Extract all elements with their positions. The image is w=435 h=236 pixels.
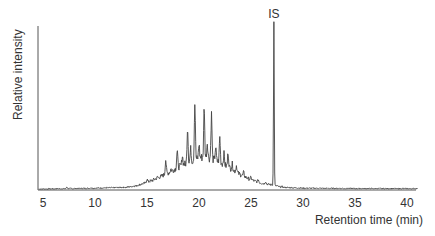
- x-tick-label: 15: [140, 196, 154, 210]
- x-tick-label: 30: [296, 196, 310, 210]
- x-axis-title: Retention time (min): [315, 213, 423, 227]
- y-axis-title: Relative intensity: [11, 29, 25, 120]
- internal-standard-label: IS: [268, 7, 279, 21]
- chromatogram-trace: [39, 22, 418, 190]
- chromatogram-chart: 510152025303540 Relative intensity Reten…: [0, 0, 435, 236]
- axes: [38, 26, 416, 190]
- x-tick-label: 10: [88, 196, 102, 210]
- x-tick-label: 35: [348, 196, 362, 210]
- x-tick-label: 40: [400, 196, 414, 210]
- peak-annotations: IS: [268, 7, 279, 21]
- x-tick-labels: 510152025303540: [40, 196, 414, 210]
- x-tick-label: 5: [40, 196, 47, 210]
- x-tick-label: 25: [244, 196, 258, 210]
- x-tick-label: 20: [192, 196, 206, 210]
